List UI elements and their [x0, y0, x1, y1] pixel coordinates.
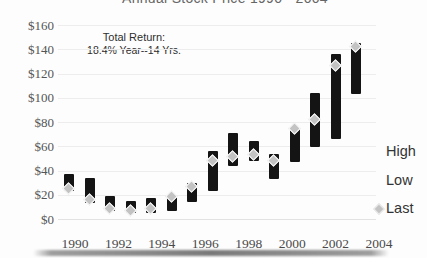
y-tick-label-100: $100 [0, 90, 54, 106]
legend-item-high: High [374, 144, 426, 159]
y-tick-label-60: $60 [0, 139, 54, 155]
gridline-80 [58, 122, 376, 123]
gridline-100 [58, 98, 376, 99]
legend-item-low: Low [374, 173, 426, 188]
gridline-160 [58, 25, 376, 26]
y-tick-label-120: $120 [0, 66, 54, 82]
y-tick-label-20: $20 [0, 187, 54, 203]
y-tick-label-40: $40 [0, 163, 54, 179]
legend-label-low: Low [386, 173, 413, 188]
y-tick-label-160: $160 [0, 18, 54, 34]
chart-title: Annual Stock Price 1990 - 2004 [100, 0, 350, 6]
legend-label-last: Last [386, 201, 413, 216]
chart-legend: High Low Last [374, 144, 426, 230]
gridline-0 [58, 219, 376, 220]
last-diamond-icon [373, 203, 384, 214]
total-return-annotation: Total Return: 18.4% Year--14 Yrs. [66, 31, 202, 56]
y-tick-label-0: $0 [0, 212, 54, 228]
legend-item-last: Last [374, 201, 426, 216]
gridline-140 [58, 49, 376, 50]
stock-price-chart: Annual Stock Price 1990 - 2004 Total Ret… [0, 0, 427, 258]
y-tick-label-140: $140 [0, 42, 54, 58]
gridline-60 [58, 146, 376, 147]
window-edge-shadow [33, 250, 389, 256]
annotation-line1: Total Return: [66, 31, 202, 44]
legend-label-high: High [386, 144, 416, 159]
y-tick-label-80: $80 [0, 115, 54, 131]
gridline-120 [58, 74, 376, 75]
